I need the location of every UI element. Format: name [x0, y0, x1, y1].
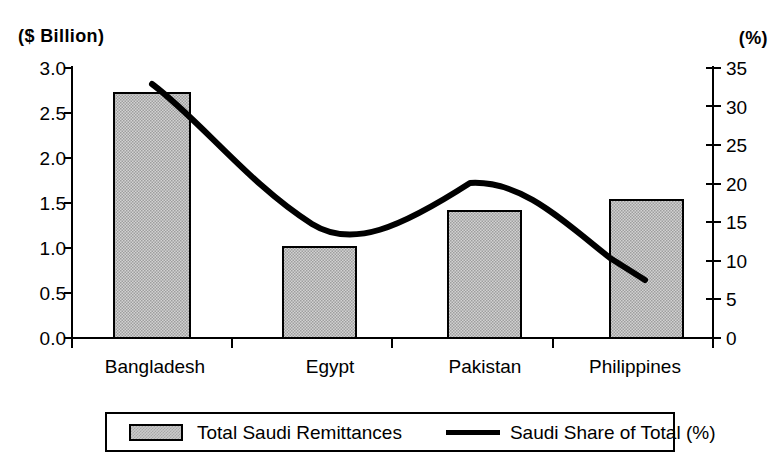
legend-entry-saudi-share: Saudi Share of Total (%) [446, 423, 716, 442]
chart-figure: ($ Billion) (%) 3.0 2.5 2.0 1.5 1.0 0.5 … [0, 0, 782, 470]
legend-label-saudi-share: Saudi Share of Total (%) [510, 423, 716, 442]
legend-label-total-remittances: Total Saudi Remittances [197, 423, 402, 442]
legend-bar-swatch-icon [129, 424, 183, 441]
x-axis-ticks [72, 338, 713, 348]
plot-area [0, 0, 782, 470]
left-axis-ticks [64, 68, 72, 338]
bar-pakistan [448, 211, 521, 338]
chart-legend: Total Saudi Remittances Saudi Share of T… [105, 412, 675, 452]
legend-line-swatch-icon [446, 430, 500, 435]
bar-bangladesh [114, 93, 190, 338]
line-series-saudi-share [152, 84, 645, 280]
bar-philippines [610, 200, 683, 338]
bar-egypt [283, 247, 356, 338]
legend-entry-total-remittances: Total Saudi Remittances [129, 423, 402, 442]
